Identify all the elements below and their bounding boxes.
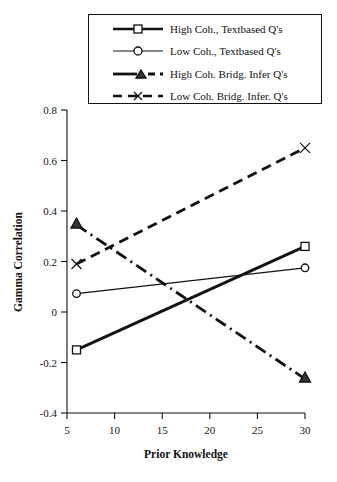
legend-label-4: Low Coh. Bridg. Infer. Q's bbox=[170, 90, 288, 102]
y-axis-title: Gamma Correlation bbox=[12, 212, 24, 312]
x-tick-label: 30 bbox=[300, 424, 312, 436]
x-tick-label: 5 bbox=[64, 424, 70, 436]
gamma-correlation-chart: High Coh., Textbased Q's Low Coh., Textb… bbox=[0, 0, 337, 482]
y-tick-label: -0.4 bbox=[40, 407, 58, 419]
x-axis-title: Prior Knowledge bbox=[144, 448, 228, 461]
legend-label-1: High Coh., Textbased Q's bbox=[170, 23, 283, 35]
legend-item-low-coh-textbased[interactable]: Low Coh., Textbased Q's bbox=[113, 45, 281, 57]
y-tick-label: 0.6 bbox=[43, 155, 57, 167]
legend-item-high-coh-textbased[interactable]: High Coh., Textbased Q's bbox=[113, 23, 283, 35]
y-tick-label: 0 bbox=[52, 306, 58, 318]
x-tick-label: 20 bbox=[204, 424, 216, 436]
y-tick-label: -0.2 bbox=[40, 357, 57, 369]
legend-label-2: Low Coh., Textbased Q's bbox=[170, 45, 281, 57]
data-point-circle-open bbox=[73, 290, 81, 298]
x-tick-label: 10 bbox=[109, 424, 121, 436]
chart-svg: High Coh., Textbased Q's Low Coh., Textb… bbox=[0, 0, 337, 482]
y-tick-label: 0.8 bbox=[43, 104, 57, 116]
data-point-square-open bbox=[73, 346, 81, 354]
data-point-circle-open bbox=[301, 264, 309, 272]
legend-label-3: High Coh. Bridg. Infer Q's bbox=[170, 68, 287, 80]
data-point-square-open bbox=[301, 242, 309, 250]
y-tick-label: 0.4 bbox=[43, 205, 57, 217]
x-tick-label: 15 bbox=[157, 424, 169, 436]
y-tick-label: 0.2 bbox=[43, 256, 57, 268]
legend: High Coh., Textbased Q's Low Coh., Textb… bbox=[89, 15, 322, 104]
legend-marker-circle-open bbox=[134, 47, 142, 55]
x-tick-label: 25 bbox=[252, 424, 264, 436]
legend-marker-square-open bbox=[134, 25, 142, 33]
